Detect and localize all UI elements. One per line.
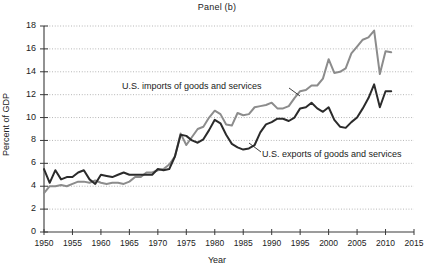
x-tick-label: 1990 — [258, 238, 286, 248]
series-line-imports — [44, 31, 391, 194]
x-tick-label: 1995 — [286, 238, 314, 248]
y-tick-label: 10 — [20, 112, 36, 122]
series-label-imports: U.S. imports of goods and services — [122, 81, 262, 91]
y-tick-label: 2 — [20, 203, 36, 213]
x-tick-label: 2010 — [372, 238, 400, 248]
y-tick-label: 16 — [20, 43, 36, 53]
x-tick-label: 1950 — [30, 238, 58, 248]
y-tick-label: 8 — [20, 134, 36, 144]
y-tick-label: 18 — [20, 20, 36, 30]
y-tick-label: 6 — [20, 157, 36, 167]
x-tick-label: 2015 — [400, 238, 428, 248]
series-line-exports — [44, 84, 391, 184]
x-tick-label: 1960 — [87, 238, 115, 248]
x-tick-label: 1970 — [144, 238, 172, 248]
chart-container: Panel (b) Percent of GDP 181614121086420… — [0, 0, 434, 273]
x-tick-label: 1975 — [172, 238, 200, 248]
series-label-exports: U.S. exports of goods and services — [262, 149, 402, 159]
x-tick-label: 1985 — [229, 238, 257, 248]
plot-area — [0, 0, 434, 273]
axis-spines — [44, 26, 414, 232]
y-tick-label: 14 — [20, 66, 36, 76]
y-tick-label: 12 — [20, 89, 36, 99]
x-tick-label: 2005 — [343, 238, 371, 248]
x-tick-label: 1965 — [115, 238, 143, 248]
x-axis-title: Year — [0, 255, 434, 265]
y-tick-label: 4 — [20, 180, 36, 190]
y-tick-label: 0 — [20, 226, 36, 236]
x-tick-label: 1980 — [201, 238, 229, 248]
x-tick-label: 1955 — [58, 238, 86, 248]
x-tick-label: 2000 — [315, 238, 343, 248]
